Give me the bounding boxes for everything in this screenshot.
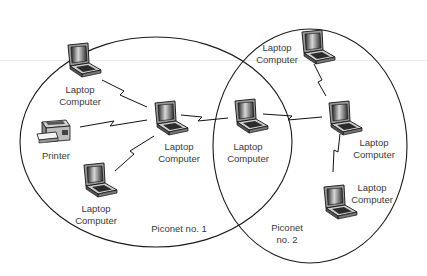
label-line: no. 2 (271, 234, 303, 246)
node-label-n5: Laptop Computer (227, 141, 269, 164)
node-label-n3: Laptop Computer (75, 203, 117, 226)
node-label-n2: Printer (42, 150, 70, 162)
link-n4-n5-icon (181, 115, 228, 121)
label-line: Piconet no. 1 (151, 223, 206, 235)
label-line: Computer (351, 194, 393, 206)
label-line: Computer (256, 54, 298, 66)
laptop-icon (302, 30, 335, 64)
printer-icon (37, 120, 70, 143)
label-line: Piconet (271, 222, 303, 234)
link-n1-n4-icon (102, 80, 147, 107)
laptop-icon (329, 101, 362, 135)
piconet-1-label: Piconet no. 1 (151, 223, 206, 235)
label-line: Computer (158, 153, 200, 165)
label-line: Laptop (227, 141, 269, 153)
piconet-2-label: Piconet no. 2 (271, 222, 303, 245)
label-line: Laptop (158, 141, 200, 153)
label-line: Computer (353, 149, 395, 161)
laptop-icon (235, 99, 268, 133)
link-n5-n7-icon (263, 114, 322, 120)
label-line: Laptop (59, 84, 101, 96)
laptop-icon (155, 101, 188, 135)
link-n2-n4-icon (80, 120, 147, 127)
label-line: Laptop (256, 42, 298, 54)
label-line: Laptop (353, 137, 395, 149)
link-n3-n4-icon (115, 136, 154, 171)
node-label-n4: Laptop Computer (158, 141, 200, 164)
node-label-n7: Laptop Computer (353, 137, 395, 160)
label-line: Laptop (75, 203, 117, 215)
label-line: Laptop (351, 182, 393, 194)
link-n6-n7-icon (314, 64, 326, 96)
node-label-n6: Laptop Computer (256, 42, 298, 65)
label-line: Computer (75, 215, 117, 227)
label-line: Printer (42, 150, 70, 162)
laptop-icon (84, 163, 117, 197)
node-label-n8: Laptop Computer (351, 182, 393, 205)
label-line: Computer (59, 96, 101, 108)
link-n7-n8-icon (333, 134, 340, 172)
node-label-n1: Laptop Computer (59, 84, 101, 107)
label-line: Computer (227, 153, 269, 165)
